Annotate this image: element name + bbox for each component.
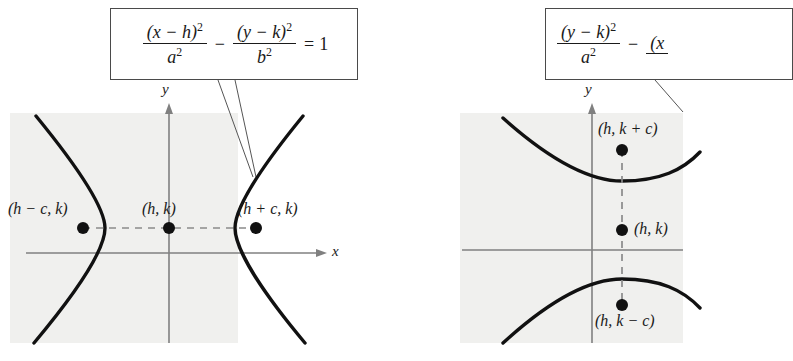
left-x-axis [26,249,327,257]
right-den1-exp: 2 [590,45,596,59]
left-first-fraction: (x − h)2 a2 [143,21,207,67]
right-center-point [616,224,628,236]
left-center-label: (h, k) [142,200,176,218]
lower-focus-label: (h, k − c) [595,312,655,330]
left-num2-exp: 2 [286,20,292,34]
left-second-fraction: (y − k)2 b2 [233,21,296,67]
upper-focus-point [616,144,628,156]
left-den1-exp: 2 [176,45,182,59]
left-branch-left [34,116,105,343]
right-equation-box: (y − k)2 a2 − (x [545,8,793,80]
right-center-label: (h, k) [634,220,668,238]
left-minus-operator: − [215,34,225,55]
upper-focus-label: (h, k + c) [598,120,658,138]
left-focus-point [77,222,89,234]
left-center-point [163,222,175,234]
left-equals-sign: = [304,34,314,55]
left-callout-leaders [218,80,256,177]
right-callout-leaders [655,80,683,112]
right-num1-exp: 2 [610,20,616,34]
right-den1: a [581,47,590,67]
right-second-fraction: (x [646,32,668,57]
right-minus-operator: − [628,34,638,55]
left-num1: (x − h) [147,22,197,42]
left-branch-right [235,116,305,343]
right-y-axis [588,103,596,343]
left-num1-exp: 2 [197,20,203,34]
right-equation: (y − k)2 a2 − (x [546,21,792,67]
left-rhs-value: 1 [319,34,328,55]
left-num2: (y − k) [237,22,286,42]
right-focus-point [250,222,262,234]
lower-focus-point [616,299,628,311]
right-num1: (y − k) [561,22,610,42]
left-den2: b [257,47,266,67]
left-den2-exp: 2 [266,45,272,59]
left-focus-label: (h − c, k) [8,200,68,218]
right-first-fraction: (y − k)2 a2 [557,21,620,67]
right-branch-lower [503,279,700,343]
right-y-axis-label: y [585,81,592,98]
left-x-axis-label: x [332,243,339,260]
left-equation-box: (x − h)2 a2 − (y − k)2 b2 = 1 [110,8,358,80]
right-focus-label: (h + c, k) [238,200,298,218]
left-equation: (x − h)2 a2 − (y − k)2 b2 = 1 [132,21,336,67]
left-den1: a [167,47,176,67]
right-diagram-graphics [462,80,700,343]
left-y-axis-label: y [162,81,169,98]
right-num2: (x [650,33,664,53]
